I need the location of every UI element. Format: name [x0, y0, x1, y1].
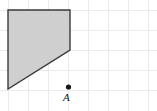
point-a-label: A — [63, 92, 70, 103]
figure-canvas: A — [0, 0, 157, 111]
shaded-quadrilateral — [8, 10, 70, 89]
figure-svg — [0, 0, 157, 111]
point-a-dot — [66, 84, 71, 89]
